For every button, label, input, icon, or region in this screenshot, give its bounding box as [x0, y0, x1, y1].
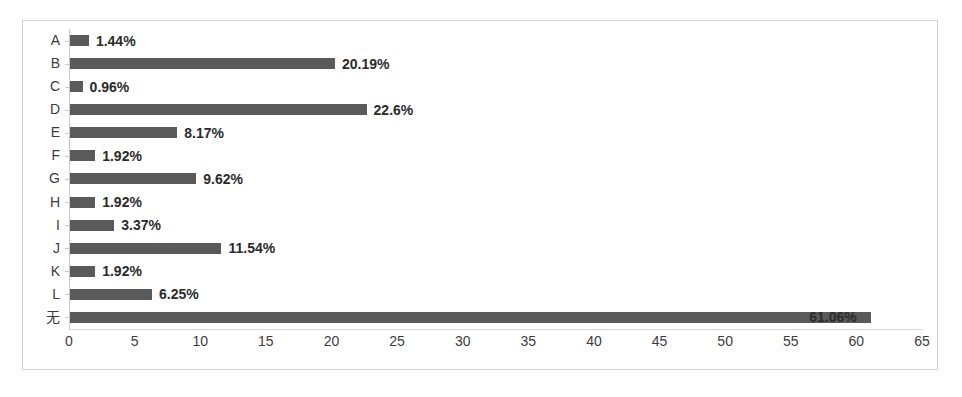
category-label: G: [23, 167, 69, 190]
bar[interactable]: [70, 312, 871, 323]
category-label: B: [23, 52, 69, 75]
bar[interactable]: [70, 127, 177, 138]
bar[interactable]: [70, 289, 152, 300]
bar-row[interactable]: 8.17%: [69, 121, 923, 144]
x-tick-label: 5: [131, 333, 139, 349]
category-label: I: [23, 214, 69, 237]
x-tick-label: 45: [652, 333, 668, 349]
bar-row[interactable]: 1.44%: [69, 29, 923, 52]
x-tick-label: 50: [717, 333, 733, 349]
bar[interactable]: [70, 58, 335, 69]
bar-row[interactable]: 61.06%: [69, 306, 923, 329]
bar-value-label: 61.06%: [809, 309, 856, 325]
bar-value-label: 0.96%: [90, 79, 130, 95]
x-axis-tick-labels: 05101520253035404550556065: [69, 333, 923, 359]
category-axis-labels: ABCDEFGHIJKL无: [23, 29, 69, 329]
bar-row[interactable]: 1.92%: [69, 191, 923, 214]
category-label: E: [23, 121, 69, 144]
bar-row[interactable]: 11.54%: [69, 237, 923, 260]
x-tick-label: 10: [192, 333, 208, 349]
bar[interactable]: [70, 220, 114, 231]
category-label: C: [23, 75, 69, 98]
chart-container: ABCDEFGHIJKL无 1.44%20.19%0.96%22.6%8.17%…: [22, 20, 938, 370]
bar-value-label: 9.62%: [203, 171, 243, 187]
x-tick-label: 25: [389, 333, 405, 349]
bar[interactable]: [70, 266, 95, 277]
bar-value-label: 1.92%: [102, 263, 142, 279]
bar-row[interactable]: 0.96%: [69, 75, 923, 98]
bar[interactable]: [70, 150, 95, 161]
bar-value-label: 11.54%: [228, 240, 275, 256]
category-label: 无: [23, 306, 69, 329]
bar-row[interactable]: 6.25%: [69, 283, 923, 306]
bar[interactable]: [70, 104, 367, 115]
category-label: D: [23, 98, 69, 121]
bar-row[interactable]: 9.62%: [69, 167, 923, 190]
bar-value-label: 22.6%: [374, 102, 414, 118]
x-tick-label: 15: [258, 333, 274, 349]
category-label: A: [23, 29, 69, 52]
x-tick-label: 30: [455, 333, 471, 349]
bar[interactable]: [70, 173, 196, 184]
bar-row[interactable]: 22.6%: [69, 98, 923, 121]
x-tick-label: 35: [521, 333, 537, 349]
bar[interactable]: [70, 81, 83, 92]
bar-row[interactable]: 1.92%: [69, 260, 923, 283]
category-label: H: [23, 191, 69, 214]
bars-area: 1.44%20.19%0.96%22.6%8.17%1.92%9.62%1.92…: [69, 29, 923, 329]
category-label: L: [23, 283, 69, 306]
bar-value-label: 1.92%: [102, 148, 142, 164]
bar-value-label: 20.19%: [342, 56, 389, 72]
bar-value-label: 6.25%: [159, 286, 199, 302]
category-label: F: [23, 144, 69, 167]
bar[interactable]: [70, 243, 221, 254]
x-tick-label: 40: [586, 333, 602, 349]
bar-row[interactable]: 3.37%: [69, 214, 923, 237]
category-label: J: [23, 237, 69, 260]
bar-value-label: 1.44%: [96, 33, 136, 49]
bar[interactable]: [70, 197, 95, 208]
bar-value-label: 3.37%: [121, 217, 161, 233]
x-tick-label: 20: [324, 333, 340, 349]
x-tick-label: 0: [65, 333, 73, 349]
x-tick-label: 65: [914, 333, 930, 349]
bar-value-label: 1.92%: [102, 194, 142, 210]
x-axis-line: [69, 329, 923, 330]
category-label: K: [23, 260, 69, 283]
bar-row[interactable]: 20.19%: [69, 52, 923, 75]
bar[interactable]: [70, 35, 89, 46]
x-tick-label: 55: [783, 333, 799, 349]
bar-value-label: 8.17%: [184, 125, 224, 141]
plot-area: ABCDEFGHIJKL无 1.44%20.19%0.96%22.6%8.17%…: [23, 21, 937, 369]
bar-row[interactable]: 1.92%: [69, 144, 923, 167]
x-tick-label: 60: [849, 333, 865, 349]
